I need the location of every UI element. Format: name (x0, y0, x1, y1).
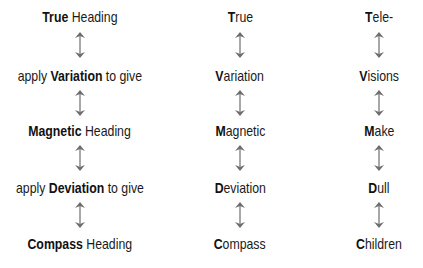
column-full-terms: True Heading apply Variation to give Mag… (0, 0, 160, 268)
double-arrow-icon (233, 200, 247, 230)
label-apply-variation: apply Variation to give (0, 68, 160, 84)
column-mnemonic: Tele- Visions Make Dull Children (329, 0, 423, 268)
label-visions: Visions (329, 68, 423, 84)
double-arrow-icon (73, 30, 87, 60)
label-true-heading: True Heading (0, 9, 160, 25)
double-arrow-icon (233, 88, 247, 118)
double-arrow-icon (233, 143, 247, 173)
double-arrow-icon (372, 200, 386, 230)
label-apply-deviation: apply Deviation to give (0, 180, 160, 196)
label-magnetic-heading: Magnetic Heading (0, 123, 160, 139)
label-compass-heading: Compass Heading (0, 236, 160, 252)
column-initial-letters: True Variation Magnetic Deviation Compas… (180, 0, 300, 268)
double-arrow-icon (73, 88, 87, 118)
label-dull: Dull (329, 180, 423, 196)
label-tele: Tele- (329, 9, 423, 25)
double-arrow-icon (73, 143, 87, 173)
label-children: Children (329, 236, 423, 252)
double-arrow-icon (73, 200, 87, 230)
label-magnetic: Magnetic (180, 123, 300, 139)
label-compass: Compass (180, 236, 300, 252)
label-true: True (180, 9, 300, 25)
label-deviation: Deviation (180, 180, 300, 196)
label-make: Make (329, 123, 423, 139)
double-arrow-icon (372, 88, 386, 118)
label-variation: Variation (180, 68, 300, 84)
double-arrow-icon (233, 30, 247, 60)
double-arrow-icon (372, 143, 386, 173)
double-arrow-icon (372, 30, 386, 60)
